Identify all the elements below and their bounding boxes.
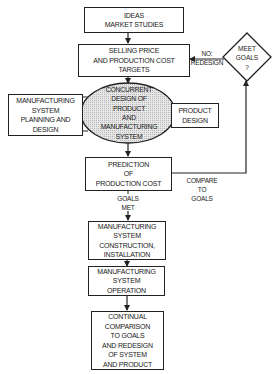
node-text: OF SYSTEM xyxy=(108,350,147,360)
meet-goals-text: MEET GOALS ? xyxy=(224,36,270,80)
node-text: PRODUCT xyxy=(178,106,211,116)
node-text: SYSTEM xyxy=(32,106,60,116)
selling-price-targets-box: SELLING PRICE AND PRODUCTION COST TARGET… xyxy=(78,44,190,77)
compare-to-goals-label: COMPARE TO GOALS xyxy=(182,176,222,203)
edge-label-text: NO: xyxy=(190,49,224,58)
node-text: MANUFACTURING xyxy=(97,267,155,277)
edge-label-text: COMPARE xyxy=(182,176,222,185)
edge-label-text: TO xyxy=(182,185,222,194)
node-text: MARKET STUDIES xyxy=(105,20,164,30)
node-text: MANUFACTURING xyxy=(101,122,158,131)
no-redesign-label: NO: REDESIGN xyxy=(190,49,224,67)
node-text: OPERATION xyxy=(107,286,146,296)
node-text: CONCURRENT xyxy=(106,85,152,94)
node-text: IDEAS xyxy=(124,11,144,21)
node-text: PRODUCTION COST xyxy=(96,179,161,189)
node-text: GOALS xyxy=(236,53,258,63)
node-text: MANUFACTURING xyxy=(98,222,156,232)
node-text: AND PRODUCT xyxy=(103,360,152,370)
system-operation-box: MANUFACTURING SYSTEM OPERATION xyxy=(88,266,165,296)
node-text: AND xyxy=(122,113,136,122)
node-text: TO GOALS xyxy=(110,331,144,341)
node-text: COMPARISON xyxy=(105,322,150,332)
node-text: DESIGN xyxy=(182,116,208,126)
concurrent-design-text: CONCURRENT DESIGN OF PRODUCT AND MANUFAC… xyxy=(83,83,175,143)
node-text: MEET xyxy=(238,44,256,54)
node-text: MANUFACTURING xyxy=(16,96,74,106)
node-text: DESIGN OF xyxy=(111,94,147,103)
node-text: ? xyxy=(245,63,249,73)
goals-met-label: GOALS MET xyxy=(110,194,146,212)
node-text: CONSTRUCTION, xyxy=(99,241,155,251)
product-design-box: PRODUCT DESIGN xyxy=(171,103,219,128)
edge-label-text: MET xyxy=(110,203,146,212)
node-text: OF xyxy=(124,169,133,179)
node-text: DESIGN xyxy=(33,125,59,135)
edge-label-text: GOALS xyxy=(182,194,222,203)
node-text: SYSTEM xyxy=(116,132,143,141)
node-text: TARGETS xyxy=(118,65,149,75)
node-text: SYSTEM xyxy=(113,231,141,241)
node-text: AND PRODUCTION COST xyxy=(93,56,174,66)
ideas-market-studies-box: IDEAS MARKET STUDIES xyxy=(84,7,184,33)
construction-installation-box: MANUFACTURING SYSTEM CONSTRUCTION, INSTA… xyxy=(88,221,166,260)
edge-label-text: GOALS xyxy=(110,194,146,203)
continual-comparison-box: CONTINUAL COMPARISON TO GOALS AND REDESI… xyxy=(91,311,164,370)
node-text: INSTALLATION xyxy=(104,250,150,260)
node-text: CONTINUAL xyxy=(108,312,147,322)
node-text: PLANNING AND xyxy=(21,115,71,125)
prediction-box: PREDICTION OF PRODUCTION COST xyxy=(85,157,172,191)
node-text: AND REDESIGN xyxy=(102,341,153,351)
node-text: SELLING PRICE xyxy=(109,46,159,56)
node-text: PRODUCT xyxy=(113,104,145,113)
node-text: SYSTEM xyxy=(113,276,141,286)
mfg-system-planning-box: MANUFACTURING SYSTEM PLANNING AND DESIGN xyxy=(8,94,83,136)
edge-label-text: REDESIGN xyxy=(190,58,224,67)
node-text: PREDICTION xyxy=(108,160,149,170)
